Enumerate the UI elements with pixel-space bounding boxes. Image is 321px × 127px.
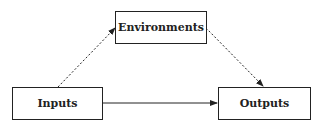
edge-inputs-to-environments (58, 28, 115, 87)
node-inputs-label: Inputs (37, 97, 77, 110)
node-environments: Environments (115, 11, 207, 44)
edge-environments-to-outputs (206, 28, 263, 86)
node-outputs: Outputs (218, 87, 311, 120)
node-environments-label: Environments (118, 21, 204, 34)
node-outputs-label: Outputs (240, 97, 290, 110)
node-inputs: Inputs (12, 87, 103, 120)
